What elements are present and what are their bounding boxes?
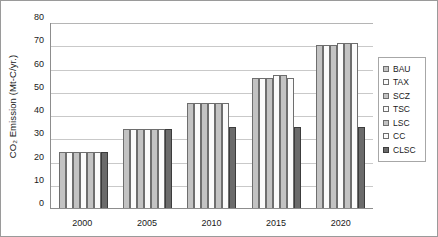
bar-clsc-2005 [165, 129, 172, 208]
bar-lsc-2010 [215, 103, 222, 208]
bar-clsc-2020 [358, 127, 365, 208]
bar-lsc-2005 [151, 129, 158, 208]
bar-clsc-2015 [294, 127, 301, 208]
legend-swatch-icon [383, 93, 389, 99]
y-axis-tick-labels: 80706050403020100 [21, 17, 47, 211]
bar-group [59, 23, 108, 208]
bar-group [252, 23, 301, 208]
x-tick-label: 2005 [137, 212, 157, 228]
legend-label: TAX [393, 78, 409, 87]
bar-group [187, 23, 236, 208]
y-tick-label: 70 [34, 35, 44, 45]
y-tick-label: 20 [34, 152, 44, 162]
x-tick-label: 2010 [201, 212, 221, 228]
bar-scz-2005 [137, 129, 144, 208]
legend-item-tax[interactable]: TAX [383, 76, 422, 90]
x-tick-label: 2020 [331, 212, 351, 228]
bar-tsc-2020 [337, 43, 344, 208]
bar-scz-2010 [201, 103, 208, 208]
legend-swatch-icon [383, 66, 389, 72]
legend-item-tsc[interactable]: TSC [383, 103, 422, 117]
bar-bau-2005 [123, 129, 130, 208]
bar-scz-2015 [266, 78, 273, 208]
bar-cc-2010 [222, 103, 229, 208]
legend-swatch-icon [383, 106, 389, 112]
y-tick-label: 40 [34, 105, 44, 115]
x-tick-label: 2000 [72, 212, 92, 228]
bar-tsc-2000 [80, 152, 87, 208]
legend-label: CC [393, 132, 405, 141]
bar-tax-2005 [130, 129, 137, 208]
legend-item-lsc[interactable]: LSC [383, 116, 422, 130]
legend-item-clsc[interactable]: CLSC [383, 143, 422, 157]
legend: BAUTAXSCZTSCLSCCCCLSC [378, 57, 426, 162]
bar-cc-2005 [158, 129, 165, 208]
bar-bau-2020 [316, 45, 323, 208]
bar-tsc-2015 [273, 75, 280, 208]
bar-bau-2000 [59, 152, 66, 208]
y-tick-label: 10 [34, 175, 44, 185]
bar-groups [51, 23, 373, 208]
legend-label: CLSC [393, 146, 416, 155]
bar-tsc-2010 [208, 103, 215, 208]
bar-scz-2000 [73, 152, 80, 208]
bar-cc-2000 [94, 152, 101, 208]
legend-item-scz[interactable]: SCZ [383, 89, 422, 103]
y-tick-label: 30 [34, 128, 44, 138]
legend-item-cc[interactable]: CC [383, 130, 422, 144]
bar-tax-2000 [66, 152, 73, 208]
y-axis-title-text: CO₂ Emission (Mt-C/yr.) [8, 54, 19, 158]
legend-swatch-icon [383, 79, 389, 85]
x-tick-label: 2015 [266, 212, 286, 228]
legend-swatch-icon [383, 147, 389, 153]
y-tick-label: 0 [39, 198, 44, 208]
legend-swatch-icon [383, 120, 389, 126]
bar-lsc-2000 [87, 152, 94, 208]
legend-item-bau[interactable]: BAU [383, 62, 422, 76]
plot-area [50, 23, 373, 209]
bar-clsc-2010 [229, 127, 236, 208]
bar-tax-2010 [194, 103, 201, 208]
bar-scz-2020 [330, 45, 337, 208]
chart-figure: CO₂ Emission (Mt-C/yr.) 8070605040302010… [0, 0, 438, 237]
legend-label: BAU [393, 65, 410, 74]
bar-tax-2015 [259, 78, 266, 208]
bar-bau-2010 [187, 103, 194, 208]
bar-lsc-2015 [280, 75, 287, 208]
bar-cc-2020 [351, 43, 358, 208]
legend-swatch-icon [383, 133, 389, 139]
bar-group [123, 23, 172, 208]
legend-label: LSC [393, 119, 410, 128]
bar-lsc-2020 [344, 43, 351, 208]
y-tick-label: 60 [34, 59, 44, 69]
bar-tax-2020 [323, 45, 330, 208]
y-tick-label: 50 [34, 82, 44, 92]
x-axis-tick-labels: 20002005201020152020 [50, 212, 373, 234]
bar-bau-2015 [252, 78, 259, 208]
bar-cc-2015 [287, 78, 294, 208]
bar-tsc-2005 [144, 129, 151, 208]
y-tick-label: 80 [34, 12, 44, 22]
legend-label: TSC [393, 105, 410, 114]
legend-label: SCZ [393, 92, 410, 101]
bar-clsc-2000 [101, 152, 108, 208]
bar-group [316, 23, 365, 208]
y-axis-title: CO₂ Emission (Mt-C/yr.) [3, 1, 23, 211]
